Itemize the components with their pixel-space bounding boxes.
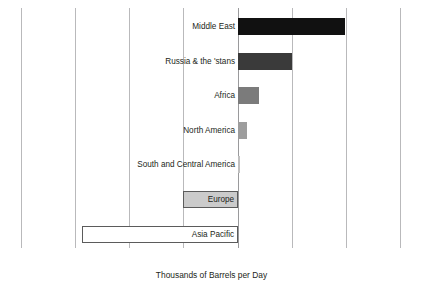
bar-row: Russia & the 'stans (0, 44, 423, 79)
bar[interactable] (238, 122, 247, 139)
bar[interactable] (238, 18, 345, 35)
category-label: Asia Pacific (192, 228, 234, 241)
bar-row: Europe (0, 182, 423, 217)
category-label: Europe (208, 193, 234, 206)
plot-area: Middle EastRussia & the 'stansAfricaNort… (0, 0, 423, 248)
category-label: Middle East (192, 20, 235, 33)
category-label: North America (183, 124, 235, 137)
bar-chart: Middle EastRussia & the 'stansAfricaNort… (0, 0, 423, 287)
bar[interactable] (238, 156, 240, 173)
bar-row: Asia Pacific (0, 217, 423, 252)
x-axis-title: Thousands of Barrels per Day (0, 269, 423, 281)
bar-row: Middle East (0, 9, 423, 44)
category-label: Russia & the 'stans (165, 55, 235, 68)
bar-row: South and Central America (0, 147, 423, 182)
bar-row: North America (0, 113, 423, 148)
bar[interactable] (238, 53, 292, 70)
category-label: South and Central America (137, 158, 235, 171)
bar-row: Africa (0, 78, 423, 113)
bar[interactable] (238, 87, 259, 104)
x-axis: –40,000–30,000–20,000–10,000010,00020,00… (0, 248, 423, 249)
category-label: Africa (214, 89, 235, 102)
